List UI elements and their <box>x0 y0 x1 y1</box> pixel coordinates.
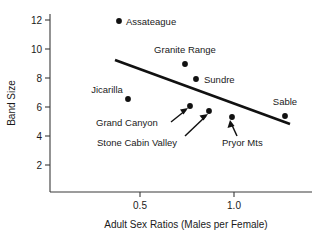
y-tick-marks <box>45 20 50 165</box>
point-label-grand-canyon: Grand Canyon <box>96 117 158 128</box>
leader-arrow-pryor-mts <box>228 120 238 136</box>
y-tick-label-10: 10 <box>31 44 43 55</box>
point-label-sundre: Sundre <box>204 74 235 85</box>
leader-arrows-group <box>171 108 237 136</box>
datapoint-granite-range[interactable] <box>182 61 188 67</box>
y-tick-label-4: 4 <box>36 131 42 142</box>
x-axis-title: Adult Sex Ratios (Males per Female) <box>104 219 267 230</box>
datapoint-jicarilla[interactable] <box>125 96 131 102</box>
datapoint-sable[interactable] <box>282 113 288 119</box>
x-tick-marks <box>140 192 234 197</box>
y-axis-title: Band Size <box>6 80 17 126</box>
datapoint-assateague[interactable] <box>116 18 122 24</box>
y-tick-label-2: 2 <box>36 160 42 171</box>
point-label-pryor-mts: Pryor Mts <box>222 137 263 148</box>
x-tick-label-1point0: 1.0 <box>227 200 241 211</box>
point-label-granite-range: Granite Range <box>154 44 216 55</box>
point-label-jicarilla: Jicarilla <box>91 84 123 95</box>
leader-arrow-grand-canyon <box>171 108 188 122</box>
x-tick-labels: 0.5 1.0 <box>133 200 241 211</box>
point-label-sable: Sable <box>273 96 297 107</box>
y-tick-label-6: 6 <box>36 102 42 113</box>
x-tick-label-0point5: 0.5 <box>133 200 147 211</box>
scatter-plot-figure: 12 10 8 6 4 2 0.5 1.0 Adult Sex Ratios (… <box>0 0 317 235</box>
point-label-assateague: Assateague <box>126 16 176 27</box>
point-label-stone-cabin-valley: Stone Cabin Valley <box>97 137 177 148</box>
plot-canvas: 12 10 8 6 4 2 0.5 1.0 Adult Sex Ratios (… <box>0 0 317 235</box>
datapoint-sundre[interactable] <box>193 76 199 82</box>
y-tick-label-12: 12 <box>31 15 43 26</box>
datapoint-pryor-mts[interactable] <box>229 114 235 120</box>
y-tick-labels: 12 10 8 6 4 2 <box>31 15 43 171</box>
datapoint-stone-cabin-valley[interactable] <box>206 108 212 114</box>
leader-arrow-stone-cabin-valley <box>185 114 208 136</box>
y-tick-label-8: 8 <box>36 73 42 84</box>
trend-line <box>115 60 290 124</box>
